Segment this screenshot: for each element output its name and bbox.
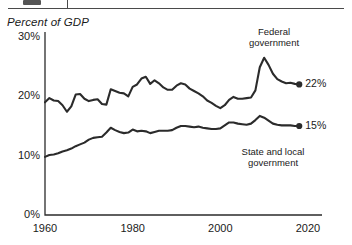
- axis-lines: [45, 32, 322, 215]
- series-lines: [45, 58, 299, 157]
- series-line-0: [45, 58, 299, 112]
- series-end-markers: [296, 81, 302, 129]
- plot-area: [0, 0, 352, 245]
- series-line-1: [45, 116, 299, 157]
- end-marker-1: [296, 123, 302, 129]
- chart-canvas: Percent of GDP 30% 20% 10% 0% 1960 1980 …: [0, 0, 352, 245]
- end-marker-0: [296, 81, 302, 87]
